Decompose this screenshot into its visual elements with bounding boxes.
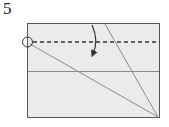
fold-diagram — [0, 0, 169, 127]
paper-rectangle — [28, 24, 160, 118]
